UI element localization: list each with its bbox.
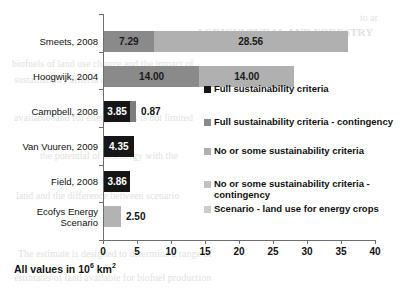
- legend-item: Scenario - land use for energy crops: [204, 204, 379, 215]
- y-axis-category-label: Ecofys EnergyScenario: [2, 206, 98, 228]
- bar-row: 7.2928.56: [103, 31, 375, 52]
- legend-item: No or some sustainability criteria - con…: [204, 179, 370, 200]
- legend-item: No or some sustainability criteria: [204, 146, 364, 157]
- bar-segment: 7.29: [104, 31, 154, 52]
- legend-item-label: Scenario - land use for energy crops: [214, 204, 379, 215]
- x-axis-tick: [273, 240, 274, 244]
- x-axis-tick: [205, 240, 206, 244]
- footnote-suffix-exponent: 2: [112, 262, 116, 269]
- x-axis-tick-label: 0: [100, 246, 106, 257]
- y-axis-category-label: Campbell, 2008: [2, 106, 98, 117]
- y-axis-tick: [99, 89, 103, 90]
- bar-value-label: 28.56: [154, 31, 348, 52]
- category-label-line: Scenario: [2, 217, 98, 228]
- y-axis-tick: [99, 127, 103, 128]
- legend-item: Full sustainability criteria - contingen…: [204, 117, 393, 128]
- legend-swatch-icon: [204, 181, 211, 188]
- x-axis-tick-label: 5: [134, 246, 140, 257]
- bar-value-label: 2.50: [126, 206, 145, 227]
- bar-segment: 3.85: [104, 101, 130, 122]
- legend-item-label: No or some sustainability criteria: [214, 146, 364, 157]
- legend-swatch-icon: [204, 206, 211, 213]
- x-axis-tick-label: 25: [267, 246, 278, 257]
- legend-item: Full sustainability criteria: [204, 84, 329, 95]
- category-label-line: Hoogwijk, 2004: [2, 71, 98, 82]
- legend-item-label: No or some sustainability criteria - con…: [214, 179, 370, 200]
- legend-swatch-icon: [204, 86, 211, 93]
- x-axis-tick-label: 15: [199, 246, 210, 257]
- bar-segment: 4.35: [104, 136, 134, 157]
- category-label-line: Van Vuuren, 2009: [2, 141, 98, 152]
- x-axis-tick-label: 35: [335, 246, 346, 257]
- y-axis-category-label: Field, 2008: [2, 176, 98, 187]
- x-axis-tick-label: 20: [233, 246, 244, 257]
- legend-swatch-icon: [204, 148, 211, 155]
- x-axis-tick: [375, 240, 376, 244]
- y-axis-category-label: Hoogwijk, 2004: [2, 71, 98, 82]
- y-axis-tick: [99, 202, 103, 203]
- category-label-line: Field, 2008: [2, 176, 98, 187]
- bar-segment: 3.86: [104, 171, 130, 192]
- y-axis-tick: [99, 14, 103, 15]
- bar-value-label: 4.35: [104, 136, 134, 157]
- units-footnote: All values in 106 km2: [14, 262, 116, 275]
- bar-value-label: 14.00: [104, 66, 199, 87]
- x-axis-tick-label: 40: [369, 246, 380, 257]
- y-axis-category-label: Smeets, 2008: [2, 36, 98, 47]
- x-axis-tick: [137, 240, 138, 244]
- x-axis-tick: [239, 240, 240, 244]
- legend-item-label: Full sustainability criteria - contingen…: [214, 117, 393, 128]
- y-axis-tick: [99, 240, 103, 241]
- y-axis-tick: [99, 165, 103, 166]
- x-axis-tick-label: 30: [301, 246, 312, 257]
- bar-segment: [130, 101, 136, 122]
- legend-swatch-icon: [204, 119, 211, 126]
- category-label-line: Ecofys Energy: [2, 206, 98, 217]
- bar-value-label: 3.86: [104, 171, 130, 192]
- bar-segment: 14.00: [104, 66, 199, 87]
- bar-value-label: 0.87: [141, 101, 160, 122]
- footnote-suffix: km: [94, 263, 112, 275]
- bar-value-label: 3.85: [104, 101, 130, 122]
- footnote-prefix: All values in 10: [14, 263, 90, 275]
- bar-segment: [104, 206, 121, 227]
- category-label-line: Smeets, 2008: [2, 36, 98, 47]
- bar-segment: 28.56: [154, 31, 348, 52]
- x-axis-tick: [307, 240, 308, 244]
- x-axis-tick: [171, 240, 172, 244]
- legend-item-label: Full sustainability criteria: [214, 84, 329, 95]
- bar-value-label: 7.29: [104, 31, 154, 52]
- x-axis-tick: [341, 240, 342, 244]
- category-label-line: Campbell, 2008: [2, 106, 98, 117]
- x-axis-tick: [103, 240, 104, 244]
- y-axis-category-label: Van Vuuren, 2009: [2, 141, 98, 152]
- x-axis-tick-label: 10: [165, 246, 176, 257]
